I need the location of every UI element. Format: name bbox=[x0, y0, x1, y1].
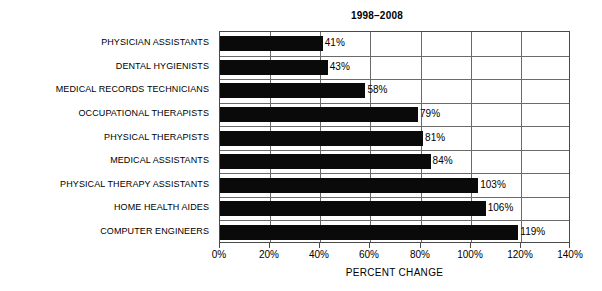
bar bbox=[220, 107, 418, 122]
bar bbox=[220, 154, 431, 169]
gridline-horizontal bbox=[220, 173, 569, 174]
x-axis-tick-label: 20% bbox=[247, 248, 291, 261]
bar-value-label: 79% bbox=[418, 108, 440, 120]
x-axis-tick-labels: 0%20%40%60%80%100%120%140% bbox=[0, 248, 602, 262]
bar-value-label: 84% bbox=[431, 155, 453, 167]
x-axis-tick-label: 80% bbox=[398, 248, 442, 261]
category-label: PHYSICAL THERAPISTS bbox=[0, 132, 214, 143]
x-axis-tick-label: 120% bbox=[498, 248, 542, 261]
x-axis-tick-label: 60% bbox=[347, 248, 391, 261]
category-label: OCCUPATIONAL THERAPISTS bbox=[0, 108, 214, 119]
category-label: PHYSICIAN ASSISTANTS bbox=[0, 37, 214, 48]
category-label: PHYSICAL THERAPY ASSISTANTS bbox=[0, 179, 214, 190]
category-label: MEDICAL ASSISTANTS bbox=[0, 155, 214, 166]
bar-value-label: 119% bbox=[518, 226, 545, 238]
bar-value-label: 81% bbox=[423, 132, 445, 144]
bar bbox=[220, 225, 518, 240]
gridline-horizontal bbox=[220, 197, 569, 198]
category-label: MEDICAL RECORDS TECHNICIANS bbox=[0, 84, 214, 95]
x-axis-title: PERCENT CHANGE bbox=[219, 266, 570, 279]
gridline-horizontal bbox=[220, 79, 569, 80]
bar-value-label: 106% bbox=[486, 202, 514, 214]
plot-area: 41%43%58%79%81%84%103%106%119% bbox=[219, 31, 570, 243]
chart-title: 1998–2008 bbox=[0, 10, 602, 22]
bar-value-label: 43% bbox=[328, 61, 350, 73]
gridline-vertical bbox=[521, 32, 522, 242]
category-axis-labels: PHYSICIAN ASSISTANTSDENTAL HYGIENISTSMED… bbox=[0, 31, 214, 243]
bar bbox=[220, 131, 423, 146]
category-label: DENTAL HYGIENISTS bbox=[0, 61, 214, 72]
x-axis-tick-label: 100% bbox=[448, 248, 492, 261]
x-axis-tick-label: 0% bbox=[197, 248, 241, 261]
x-axis-tick-label: 40% bbox=[297, 248, 341, 261]
category-label: COMPUTER ENGINEERS bbox=[0, 226, 214, 237]
bar bbox=[220, 178, 478, 193]
category-label: HOME HEALTH AIDES bbox=[0, 202, 214, 213]
x-axis-tick-label: 140% bbox=[548, 248, 592, 261]
gridline-horizontal bbox=[220, 126, 569, 127]
bar-value-label: 41% bbox=[323, 37, 345, 49]
gridline-horizontal bbox=[220, 103, 569, 104]
gridline-horizontal bbox=[220, 150, 569, 151]
bar bbox=[220, 60, 328, 75]
bar-value-label: 58% bbox=[365, 84, 387, 96]
bar-chart: 1998–2008 PHYSICIAN ASSISTANTSDENTAL HYG… bbox=[0, 0, 602, 291]
bar bbox=[220, 83, 365, 98]
bar bbox=[220, 36, 323, 51]
gridline-horizontal bbox=[220, 56, 569, 57]
bar-value-label: 103% bbox=[478, 179, 506, 191]
bar bbox=[220, 201, 486, 216]
gridline-horizontal bbox=[220, 220, 569, 221]
